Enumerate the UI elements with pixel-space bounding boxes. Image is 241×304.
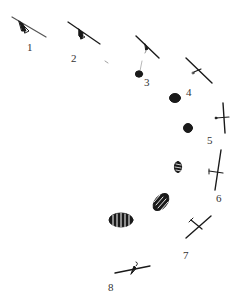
glider-icon-step-1 <box>12 17 46 37</box>
step-label-3: 3 <box>144 77 150 88</box>
glider-icon-step-7 <box>186 216 211 238</box>
step-label-2: 2 <box>71 53 77 64</box>
glider-icon-step-4 <box>186 58 212 83</box>
parachute-icon-step-5 <box>184 124 193 133</box>
glider-icon-step-5 <box>215 103 229 133</box>
step-label-5: 5 <box>207 135 213 146</box>
step-label-4: 4 <box>186 87 192 98</box>
main-parachute-icon-lower <box>109 213 133 227</box>
parachute-icon-step-4 <box>170 94 181 103</box>
glider-sequence-diagram <box>0 0 241 304</box>
step-label-6: 6 <box>216 193 222 204</box>
main-parachute-icon-upper <box>150 190 172 213</box>
debris-mark <box>105 61 108 63</box>
parachute-icon-step-6 <box>174 162 181 173</box>
glider-icon-step-8 <box>115 262 150 274</box>
step-label-1: 1 <box>27 42 33 53</box>
drogue-parachute-icon-step-3 <box>135 61 142 77</box>
step-label-7: 7 <box>183 250 189 261</box>
glider-icon-step-3 <box>136 36 159 58</box>
glider-icon-step-6 <box>209 150 223 190</box>
step-label-8: 8 <box>108 282 114 293</box>
